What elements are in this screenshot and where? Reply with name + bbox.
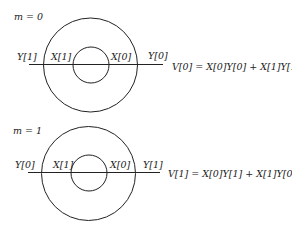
label-left-outer: Y[1] (17, 52, 37, 62)
label-right-outer: Y[0] (148, 51, 168, 61)
label-right-inner: X[0] (110, 160, 130, 170)
equation: V[0] = X[0]Y[0] + X[1]Y[1] (172, 62, 292, 72)
outer-circle-m1 (42, 127, 136, 221)
label-left-outer: Y[0] (15, 160, 35, 170)
label-left-inner: X[1] (51, 52, 71, 62)
label-right-outer: Y[1] (143, 160, 163, 170)
label-left-inner: X[1] (53, 160, 73, 170)
m-label: m = 0 (14, 12, 43, 22)
m-label: m = 1 (13, 126, 42, 136)
label-right-inner: X[0] (111, 52, 131, 62)
diagram-m0-shapes (29, 18, 163, 112)
equation: V[1] = X[0]Y[1] + X[1]Y[0] (168, 169, 292, 179)
diagram-canvas (0, 0, 292, 233)
diagram-m1-shapes (28, 127, 160, 221)
